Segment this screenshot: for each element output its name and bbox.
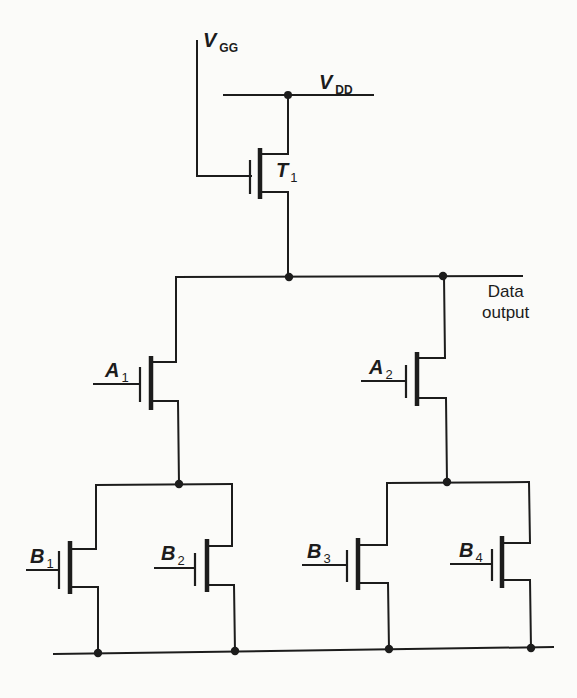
- b3-label: B3: [307, 541, 331, 561]
- ground-rail: [54, 644, 553, 657]
- right-b-bus: [387, 478, 529, 486]
- circuit-diagram: [0, 0, 577, 698]
- a1-label: A1: [105, 360, 129, 380]
- b1-label: B1: [30, 546, 54, 566]
- transistor-b4: [451, 482, 531, 648]
- vgg-wire: [197, 41, 251, 176]
- transistor-a2: [362, 276, 447, 482]
- a2-label: A2: [369, 357, 393, 377]
- transistor-b1: [27, 485, 98, 653]
- ground-junction-dot-b4: [527, 644, 535, 652]
- transistor-b3: [303, 483, 389, 649]
- ground-junction-dot-b1: [94, 649, 102, 657]
- a1-source-junction-dot: [175, 480, 183, 488]
- output-bus: [176, 272, 522, 281]
- output-junction-dot-t1: [285, 273, 293, 281]
- t1-label: T1: [276, 160, 297, 180]
- data-output-line1: Data: [482, 281, 529, 302]
- vdd-label: VDD: [319, 72, 353, 92]
- b2-label: B2: [161, 543, 185, 563]
- a2-source-junction-dot: [443, 478, 451, 486]
- data-output-line2: output: [482, 302, 529, 323]
- ground-junction-dot-b3: [385, 645, 393, 653]
- transistor-t1: [250, 95, 288, 277]
- vgg-label: VGG: [203, 30, 238, 50]
- data-output-label: Data output: [482, 281, 529, 323]
- left-b-bus: [96, 480, 232, 488]
- ground-junction-dot-b2: [231, 647, 239, 655]
- b4-label: B4: [459, 540, 483, 560]
- transistor-b2: [155, 484, 235, 651]
